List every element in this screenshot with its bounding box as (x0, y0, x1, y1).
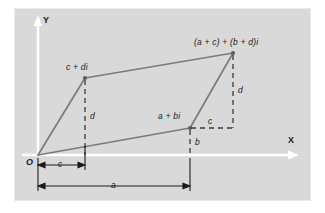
x-axis-label: X (288, 136, 294, 145)
diagram-canvas (0, 0, 325, 213)
c-dimension-arrow-right (78, 162, 85, 168)
sum-vertex-label: (a + c) + (b + d)i (194, 38, 258, 47)
figure-container: Y X O (a + c) + (b + d)i c + di a + bi d… (0, 0, 325, 213)
d-right-label: d (238, 86, 243, 95)
y-axis-arrowhead (34, 15, 43, 26)
construction-lines (85, 55, 233, 156)
a-dimension-arrow-left (38, 183, 45, 189)
c-dimension-label: c (58, 160, 62, 169)
b-label: b (195, 138, 200, 147)
side-origin-to-a-plus-bi (38, 128, 190, 155)
x-axis-arrowhead (288, 151, 299, 160)
side-c-plus-di-to-sum (85, 53, 233, 78)
c-dimension-arrow-left (38, 162, 45, 168)
a-dimension-arrow-right (183, 183, 190, 189)
y-axis-label: Y (43, 16, 49, 25)
vertex-dot-c-plus-di (83, 76, 87, 80)
c-plus-di-vertex-label: c + di (66, 63, 88, 72)
c-inner-label: c (208, 117, 212, 126)
origin-label: O (26, 158, 33, 167)
vertex-dot-sum (231, 51, 235, 55)
a-plus-bi-vertex-label: a + bi (158, 112, 180, 121)
side-origin-to-c-plus-di (38, 78, 85, 155)
d-left-label: d (90, 112, 95, 121)
a-dimension-label: a (111, 181, 116, 190)
